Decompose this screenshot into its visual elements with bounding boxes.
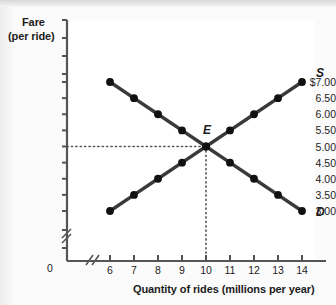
demand-point-9 bbox=[178, 126, 186, 134]
supply-point-10 bbox=[202, 143, 210, 151]
supply-point-12 bbox=[250, 110, 258, 118]
axes-group bbox=[62, 20, 326, 265]
supply-point-6 bbox=[106, 207, 114, 215]
demand-point-14 bbox=[298, 207, 306, 215]
demand-point-13 bbox=[274, 191, 282, 199]
chart-drawing-surface bbox=[0, 0, 336, 305]
equilibrium-point-label: E bbox=[203, 123, 211, 137]
demand-point-7 bbox=[130, 94, 138, 102]
supply-point-7 bbox=[130, 191, 138, 199]
supply-curve-label: S bbox=[316, 66, 324, 80]
demand-point-8 bbox=[154, 110, 162, 118]
supply-point-8 bbox=[154, 175, 162, 183]
supply-demand-chart-figure: Fare (per ride) Quantity of rides (milli… bbox=[0, 0, 336, 305]
supply-point-11 bbox=[226, 126, 234, 134]
supply-point-14 bbox=[298, 78, 306, 86]
supply-point-13 bbox=[274, 94, 282, 102]
demand-point-12 bbox=[250, 175, 258, 183]
demand-curve-label: D bbox=[316, 205, 325, 219]
demand-point-6 bbox=[106, 78, 114, 86]
supply-point-9 bbox=[178, 159, 186, 167]
demand-point-11 bbox=[226, 159, 234, 167]
